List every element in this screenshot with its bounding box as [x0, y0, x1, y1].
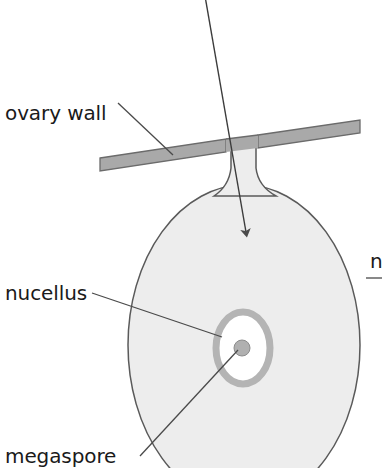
label-ovary-wall: ovary wall	[5, 101, 106, 125]
ovule-diagram: n ovary wall nucellus megaspore	[0, 0, 382, 468]
ovary-wall	[100, 120, 360, 171]
label-megaspore: megaspore	[5, 444, 116, 468]
ovary-wall-right-segment	[258, 120, 360, 148]
ovary-wall-leader	[118, 103, 173, 155]
megaspore-nucleus	[234, 340, 250, 356]
label-nucellus: nucellus	[5, 281, 87, 305]
ovary-wall-left-segment	[100, 139, 226, 171]
cropped-right-label: n	[370, 249, 382, 273]
